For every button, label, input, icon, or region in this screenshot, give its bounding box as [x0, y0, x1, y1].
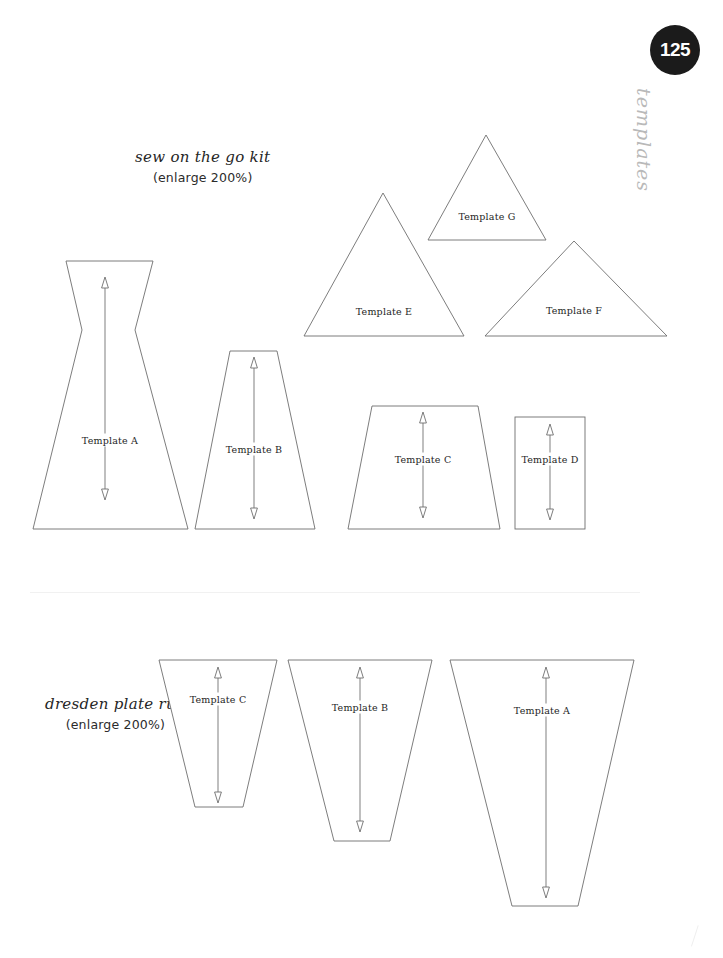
enlarge-note: (enlarge 200%): [45, 717, 186, 732]
section-title: sew on the go kit: [135, 148, 270, 166]
template-shape-sew-c: [348, 406, 500, 529]
template-piece-label: Template A: [78, 434, 142, 447]
template-shape-sew-b: [195, 351, 315, 529]
template-piece-label: Template B: [328, 701, 392, 714]
grainline-arrow-head: [251, 357, 258, 368]
section-heading-dresden-plate-rug: dresden plate rug (enlarge 200%): [45, 695, 186, 732]
template-shape-sew-g: [428, 135, 546, 240]
template-piece-label: Template C: [186, 693, 251, 706]
grainline-arrow-head: [420, 412, 427, 423]
template-piece-label: Template F: [542, 304, 606, 317]
template-piece-label: Template G: [454, 210, 519, 223]
grainline-arrow-head: [251, 508, 258, 519]
template-shapes-layer: [0, 0, 723, 958]
page-number-badge: 125: [650, 25, 700, 75]
template-shape-dresden-a: [450, 660, 634, 906]
template-piece-label: Template D: [517, 453, 582, 466]
section-divider: [30, 592, 640, 593]
grainline-arrow-head: [357, 667, 364, 678]
template-piece-label: Template E: [352, 305, 416, 318]
template-shape-dresden-c: [159, 660, 277, 807]
grainline-arrow-head: [215, 792, 222, 803]
grainline-arrow-head: [547, 424, 554, 435]
scan-artifact: [691, 925, 712, 951]
grainline-arrow-head: [547, 509, 554, 520]
grainline-arrow-head: [102, 277, 109, 288]
template-piece-label: Template C: [391, 453, 456, 466]
template-shape-sew-d: [515, 417, 585, 529]
grainline-arrows: [102, 277, 554, 898]
grainline-arrow-head: [215, 667, 222, 678]
grainline-arrow-head: [420, 507, 427, 518]
template-piece-label: Template B: [222, 443, 286, 456]
grainline-arrow-head: [543, 667, 550, 678]
templates-page: 125 templates sew on the go kit (enlarge…: [0, 0, 723, 958]
grainline-arrow-head: [357, 821, 364, 832]
grainline-arrow-head: [543, 887, 550, 898]
grainline-arrow-head: [102, 489, 109, 500]
template-shape-sew-a: [33, 261, 188, 529]
section-title: dresden plate rug: [45, 695, 186, 713]
section-marker-label: templates: [633, 88, 655, 192]
template-piece-label: Template A: [510, 704, 574, 717]
template-shape-dresden-b: [288, 660, 432, 841]
section-heading-sew-on-the-go-kit: sew on the go kit (enlarge 200%): [135, 148, 270, 185]
enlarge-note: (enlarge 200%): [135, 170, 270, 185]
template-shape-sew-f: [485, 241, 667, 336]
